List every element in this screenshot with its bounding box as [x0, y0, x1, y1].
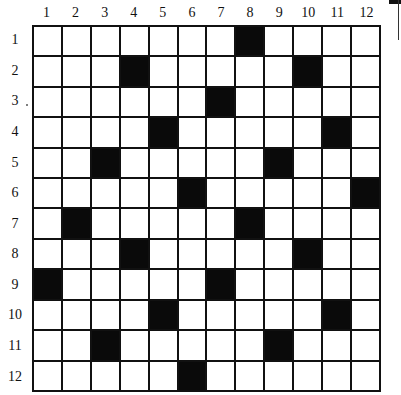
white-cell[interactable] [63, 270, 92, 300]
white-cell[interactable] [294, 209, 323, 239]
white-cell[interactable] [150, 179, 179, 209]
white-cell[interactable] [236, 179, 265, 209]
white-cell[interactable] [236, 118, 265, 148]
white-cell[interactable] [352, 209, 381, 239]
white-cell[interactable] [207, 179, 236, 209]
white-cell[interactable] [121, 270, 150, 300]
white-cell[interactable] [34, 88, 63, 118]
white-cell[interactable] [323, 179, 352, 209]
white-cell[interactable] [92, 88, 121, 118]
white-cell[interactable] [294, 149, 323, 179]
white-cell[interactable] [294, 301, 323, 331]
white-cell[interactable] [150, 88, 179, 118]
white-cell[interactable] [352, 331, 381, 361]
white-cell[interactable] [179, 331, 208, 361]
white-cell[interactable] [236, 331, 265, 361]
white-cell[interactable] [236, 88, 265, 118]
white-cell[interactable] [236, 270, 265, 300]
white-cell[interactable] [294, 88, 323, 118]
white-cell[interactable] [265, 209, 294, 239]
white-cell[interactable] [207, 118, 236, 148]
white-cell[interactable] [150, 240, 179, 270]
white-cell[interactable] [92, 209, 121, 239]
white-cell[interactable] [207, 27, 236, 57]
white-cell[interactable] [179, 88, 208, 118]
white-cell[interactable] [323, 240, 352, 270]
white-cell[interactable] [265, 27, 294, 57]
white-cell[interactable] [150, 331, 179, 361]
white-cell[interactable] [92, 118, 121, 148]
white-cell[interactable] [294, 118, 323, 148]
white-cell[interactable] [63, 118, 92, 148]
white-cell[interactable] [236, 301, 265, 331]
white-cell[interactable] [63, 57, 92, 87]
white-cell[interactable] [179, 27, 208, 57]
white-cell[interactable] [352, 27, 381, 57]
white-cell[interactable] [63, 179, 92, 209]
white-cell[interactable] [121, 149, 150, 179]
white-cell[interactable] [179, 240, 208, 270]
white-cell[interactable] [150, 57, 179, 87]
white-cell[interactable] [121, 27, 150, 57]
white-cell[interactable] [207, 362, 236, 392]
white-cell[interactable] [207, 301, 236, 331]
white-cell[interactable] [150, 362, 179, 392]
white-cell[interactable] [179, 149, 208, 179]
white-cell[interactable] [34, 149, 63, 179]
white-cell[interactable] [179, 57, 208, 87]
white-cell[interactable] [63, 362, 92, 392]
white-cell[interactable] [92, 301, 121, 331]
white-cell[interactable] [121, 301, 150, 331]
white-cell[interactable] [179, 270, 208, 300]
white-cell[interactable] [63, 240, 92, 270]
white-cell[interactable] [352, 118, 381, 148]
white-cell[interactable] [34, 240, 63, 270]
white-cell[interactable] [121, 118, 150, 148]
white-cell[interactable] [265, 362, 294, 392]
white-cell[interactable] [179, 209, 208, 239]
white-cell[interactable] [323, 331, 352, 361]
white-cell[interactable] [352, 88, 381, 118]
white-cell[interactable] [265, 270, 294, 300]
white-cell[interactable] [34, 179, 63, 209]
white-cell[interactable] [63, 331, 92, 361]
white-cell[interactable] [34, 301, 63, 331]
white-cell[interactable] [34, 118, 63, 148]
white-cell[interactable] [179, 301, 208, 331]
white-cell[interactable] [323, 362, 352, 392]
white-cell[interactable] [92, 179, 121, 209]
white-cell[interactable] [207, 149, 236, 179]
white-cell[interactable] [207, 209, 236, 239]
white-cell[interactable] [34, 27, 63, 57]
white-cell[interactable] [323, 209, 352, 239]
white-cell[interactable] [323, 149, 352, 179]
white-cell[interactable] [323, 57, 352, 87]
white-cell[interactable] [150, 209, 179, 239]
white-cell[interactable] [207, 240, 236, 270]
white-cell[interactable] [265, 301, 294, 331]
white-cell[interactable] [265, 118, 294, 148]
white-cell[interactable] [150, 149, 179, 179]
white-cell[interactable] [121, 179, 150, 209]
white-cell[interactable] [121, 209, 150, 239]
white-cell[interactable] [265, 88, 294, 118]
white-cell[interactable] [34, 331, 63, 361]
white-cell[interactable] [236, 57, 265, 87]
white-cell[interactable] [352, 270, 381, 300]
white-cell[interactable] [92, 27, 121, 57]
white-cell[interactable] [63, 88, 92, 118]
white-cell[interactable] [323, 270, 352, 300]
white-cell[interactable] [92, 362, 121, 392]
white-cell[interactable] [92, 57, 121, 87]
white-cell[interactable] [352, 240, 381, 270]
white-cell[interactable] [294, 270, 323, 300]
white-cell[interactable] [92, 270, 121, 300]
white-cell[interactable] [121, 88, 150, 118]
white-cell[interactable] [179, 118, 208, 148]
white-cell[interactable] [236, 149, 265, 179]
white-cell[interactable] [34, 209, 63, 239]
white-cell[interactable] [294, 179, 323, 209]
white-cell[interactable] [34, 362, 63, 392]
white-cell[interactable] [121, 331, 150, 361]
white-cell[interactable] [265, 57, 294, 87]
